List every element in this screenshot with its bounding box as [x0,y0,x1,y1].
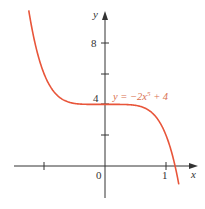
origin-label: 0 [96,169,102,181]
x-axis-label: x [190,168,196,180]
x-tick-label-1: 1 [162,169,168,181]
y-axis-arrow-icon [102,11,108,20]
equation-label: y = −2x5 + 4 [112,90,169,102]
y-tick-label-4: 4 [93,92,99,104]
y-axis-label: y [92,8,98,20]
y-tick-label-8: 8 [91,37,97,49]
chart: y x 0 1 4 8 y = −2x5 + 4 [0,0,205,209]
